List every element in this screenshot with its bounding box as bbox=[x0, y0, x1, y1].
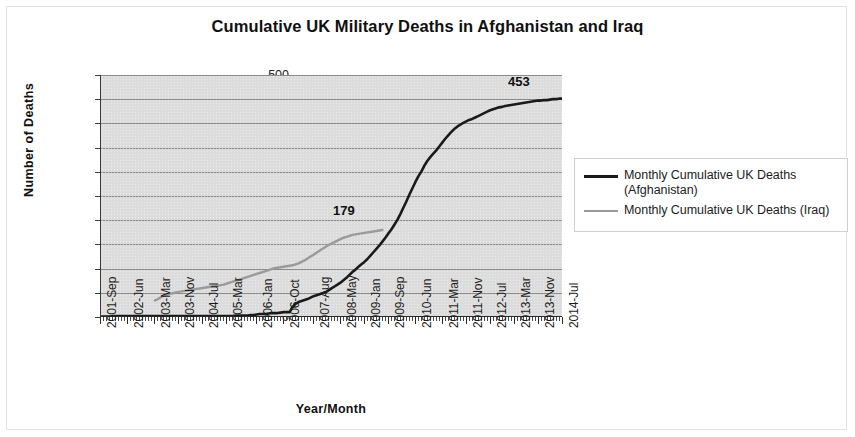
x-tick-minor bbox=[103, 317, 104, 321]
x-tick-minor bbox=[343, 317, 344, 321]
x-tick-minor bbox=[337, 317, 338, 321]
x-tick-minor bbox=[535, 317, 536, 321]
x-tick-minor bbox=[280, 317, 281, 321]
legend-swatch-afghanistan bbox=[584, 175, 618, 178]
x-tick-minor bbox=[151, 317, 152, 321]
x-tick-minor bbox=[361, 317, 362, 321]
legend-swatch-iraq bbox=[584, 210, 618, 212]
x-tick-minor bbox=[259, 317, 260, 321]
x-tick-minor bbox=[199, 317, 200, 321]
x-tick-minor bbox=[469, 317, 470, 321]
x-tick-minor bbox=[253, 317, 254, 321]
x-tick-label: 2009-Sep bbox=[393, 277, 407, 328]
x-tick-minor bbox=[487, 317, 488, 321]
chart-page: Cumulative UK Military Deaths in Afghani… bbox=[0, 0, 855, 437]
x-tick-minor bbox=[463, 317, 464, 321]
x-tick-label: 2008-May bbox=[345, 275, 359, 328]
x-tick-major bbox=[256, 317, 257, 324]
x-tick-label: 2012-Jul bbox=[495, 283, 509, 328]
x-tick-label: 2011-Nov bbox=[471, 278, 485, 328]
x-tick-label: 2005-Mar bbox=[231, 277, 245, 328]
x-tick-minor bbox=[247, 317, 248, 321]
x-tick-major bbox=[178, 317, 179, 324]
x-tick-minor bbox=[511, 317, 512, 321]
x-tick-label: 2011-Mar bbox=[447, 278, 461, 328]
x-tick-minor bbox=[304, 317, 305, 321]
x-tick-minor bbox=[391, 317, 392, 321]
x-tick-minor bbox=[205, 317, 206, 321]
x-tick-major bbox=[388, 317, 389, 324]
x-tick-minor bbox=[286, 317, 287, 321]
x-tick-label: 2009-Jan bbox=[369, 279, 383, 328]
legend-item-iraq[interactable]: Monthly Cumulative UK Deaths (Iraq) bbox=[581, 203, 841, 218]
x-tick-minor bbox=[229, 317, 230, 321]
chart-title: Cumulative UK Military Deaths in Afghani… bbox=[0, 17, 855, 36]
x-tick-minor bbox=[175, 317, 176, 321]
x-tick-minor bbox=[493, 317, 494, 321]
x-tick-minor bbox=[130, 317, 131, 321]
x-tick-major bbox=[538, 317, 539, 324]
x-tick-minor bbox=[367, 317, 368, 321]
x-tick-minor bbox=[559, 317, 560, 321]
x-tick-minor bbox=[439, 317, 440, 321]
x-tick-label: 2003-Nov bbox=[183, 277, 197, 328]
x-tick-major bbox=[154, 317, 155, 324]
legend-label-afghanistan: Monthly Cumulative UK Deaths (Afghanista… bbox=[624, 168, 796, 198]
x-tick-label: 2013-Nov bbox=[543, 277, 557, 328]
x-tick-minor bbox=[436, 317, 437, 321]
data-label-afghanistan-end: 453 bbox=[508, 74, 530, 89]
x-tick-major bbox=[226, 317, 227, 324]
x-tick-minor bbox=[124, 317, 125, 321]
x-tick-major bbox=[415, 317, 416, 324]
x-tick-label: 2004-Jul bbox=[207, 283, 221, 328]
chart-legend: Monthly Cumulative UK Deaths (Afghanista… bbox=[574, 158, 848, 232]
x-tick-minor bbox=[418, 317, 419, 321]
x-tick-major bbox=[562, 317, 563, 324]
x-tick-minor bbox=[412, 317, 413, 321]
x-tick-label: 2007-Aug bbox=[318, 277, 332, 328]
y-axis-title: Number of Deaths bbox=[22, 83, 36, 197]
x-tick-label: 2010-Jun bbox=[420, 279, 434, 328]
x-tick-minor bbox=[316, 317, 317, 321]
x-tick-major bbox=[442, 317, 443, 324]
x-tick-label: 2014-Jul bbox=[567, 283, 581, 328]
x-tick-major bbox=[100, 317, 101, 324]
legend-label-afghanistan-line1: Monthly Cumulative UK Deaths bbox=[624, 168, 796, 182]
x-tick-minor bbox=[517, 317, 518, 321]
data-label-iraq-end: 179 bbox=[333, 203, 355, 218]
x-tick-minor bbox=[250, 317, 251, 321]
legend-label-iraq: Monthly Cumulative UK Deaths (Iraq) bbox=[624, 203, 829, 218]
x-tick-major bbox=[313, 317, 314, 324]
x-tick-major bbox=[364, 317, 365, 324]
x-tick-minor bbox=[445, 317, 446, 321]
x-tick-minor bbox=[181, 317, 182, 321]
x-tick-minor bbox=[310, 317, 311, 321]
x-tick-label: 2003-Mar bbox=[159, 277, 173, 328]
x-tick-minor bbox=[121, 317, 122, 321]
x-tick-minor bbox=[541, 317, 542, 321]
legend-item-afghanistan[interactable]: Monthly Cumulative UK Deaths (Afghanista… bbox=[581, 168, 841, 198]
x-tick-major bbox=[340, 317, 341, 324]
x-tick-minor bbox=[334, 317, 335, 321]
x-tick-minor bbox=[409, 317, 410, 321]
x-tick-label: 2013-Mar bbox=[519, 277, 533, 328]
x-tick-minor bbox=[157, 317, 158, 321]
x-tick-label: 2002-Jun bbox=[132, 279, 146, 328]
x-tick-major bbox=[202, 317, 203, 324]
x-tick-minor bbox=[307, 317, 308, 321]
x-tick-label: 2006-Jan bbox=[261, 279, 275, 328]
x-tick-major bbox=[127, 317, 128, 324]
legend-label-afghanistan-line2: (Afghanistan) bbox=[624, 183, 698, 197]
x-tick-label: 2006-Oct bbox=[288, 279, 302, 328]
x-tick-label: 2001-Sep bbox=[105, 277, 119, 328]
x-tick-major bbox=[514, 317, 515, 324]
x-tick-major bbox=[466, 317, 467, 324]
x-tick-major bbox=[283, 317, 284, 324]
x-tick-minor bbox=[277, 317, 278, 321]
x-tick-minor bbox=[148, 317, 149, 321]
x-tick-minor bbox=[385, 317, 386, 321]
x-tick-minor bbox=[223, 317, 224, 321]
x-axis-title: Year/Month bbox=[100, 402, 562, 416]
x-tick-major bbox=[490, 317, 491, 324]
